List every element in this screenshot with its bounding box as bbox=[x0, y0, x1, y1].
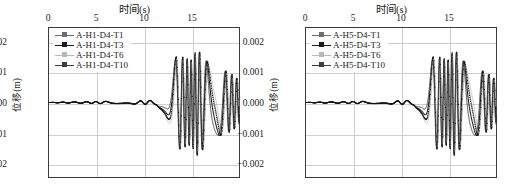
legend-label: A-H1-D4-T6 bbox=[76, 51, 124, 60]
x-tick-label: 5 bbox=[351, 13, 356, 23]
legend-marker-icon bbox=[312, 51, 331, 60]
legend: A-H5-D4-T1 A-H5-D4-T3 A-H5-D4-T6 A-H5-D4… bbox=[310, 29, 388, 72]
legend-marker-icon bbox=[312, 41, 331, 50]
y-tick-label: 0.000 bbox=[243, 98, 264, 108]
x-tick-label: 15 bbox=[187, 13, 197, 23]
y-tick-label: 0.001 bbox=[0, 67, 7, 77]
x-tick-label: 15 bbox=[444, 13, 454, 23]
x-axis-title: 时间(s) bbox=[257, 1, 514, 16]
legend-item[interactable]: A-H1-D4-T6 bbox=[55, 50, 128, 60]
y-tick-label: −0.001 bbox=[0, 129, 7, 139]
y-tick-label: 0.000 bbox=[0, 98, 7, 108]
legend-item[interactable]: A-H5-D4-T1 bbox=[312, 30, 385, 40]
legend-marker-icon bbox=[55, 51, 74, 60]
y-tick-label: −0.001 bbox=[237, 129, 264, 139]
y-tick-label: −0.002 bbox=[237, 159, 264, 169]
x-tick-label: 5 bbox=[94, 13, 99, 23]
legend-item[interactable]: A-H1-D4-T10 bbox=[55, 60, 128, 70]
panel-a-h1-d4: 时间(s) 位移(m) 0 5 10 15 0.002 0.001 0.000 … bbox=[0, 0, 257, 189]
x-tick-label: 10 bbox=[396, 13, 406, 23]
legend-item[interactable]: A-H5-D4-T6 bbox=[312, 50, 385, 60]
legend-item[interactable]: A-H1-D4-T1 bbox=[55, 30, 128, 40]
y-tick-label: 0.002 bbox=[0, 37, 7, 47]
y-axis-title: 位移(m) bbox=[266, 78, 280, 112]
x-axis-title: 时间(s) bbox=[0, 1, 257, 16]
legend-label: A-H1-D4-T1 bbox=[76, 31, 124, 40]
y-axis-title: 位移(m) bbox=[9, 78, 23, 112]
y-tick-label: 0.001 bbox=[243, 67, 264, 77]
panel-a-h5-d4: 时间(s) 位移(m) 0 5 10 15 0.002 0.001 0.000 … bbox=[257, 0, 514, 189]
x-tick-label: 0 bbox=[303, 13, 308, 23]
legend-marker-icon bbox=[312, 31, 331, 40]
legend-item[interactable]: A-H5-D4-T10 bbox=[312, 60, 385, 70]
legend-marker-icon bbox=[55, 61, 74, 70]
y-tick-label: 0.002 bbox=[243, 37, 264, 47]
y-tick-label: −0.002 bbox=[0, 159, 7, 169]
x-tick-label: 10 bbox=[139, 13, 149, 23]
legend-label: A-H1-D4-T10 bbox=[76, 61, 128, 70]
x-tick-label: 0 bbox=[46, 13, 51, 23]
figure-two-panel-displacement-time-histories: 时间(s) 位移(m) 0 5 10 15 0.002 0.001 0.000 … bbox=[0, 0, 514, 189]
legend-label: A-H5-D4-T6 bbox=[333, 51, 381, 60]
legend-marker-icon bbox=[55, 41, 74, 50]
legend-marker-icon bbox=[55, 31, 74, 40]
legend: A-H1-D4-T1 A-H1-D4-T3 A-H1-D4-T6 A-H1-D4… bbox=[53, 29, 131, 72]
legend-item[interactable]: A-H5-D4-T3 bbox=[312, 40, 385, 50]
legend-label: A-H5-D4-T10 bbox=[333, 61, 385, 70]
legend-item[interactable]: A-H1-D4-T3 bbox=[55, 40, 128, 50]
legend-marker-icon bbox=[312, 61, 331, 70]
legend-label: A-H1-D4-T3 bbox=[76, 41, 124, 50]
legend-label: A-H5-D4-T3 bbox=[333, 41, 381, 50]
legend-label: A-H5-D4-T1 bbox=[333, 31, 381, 40]
